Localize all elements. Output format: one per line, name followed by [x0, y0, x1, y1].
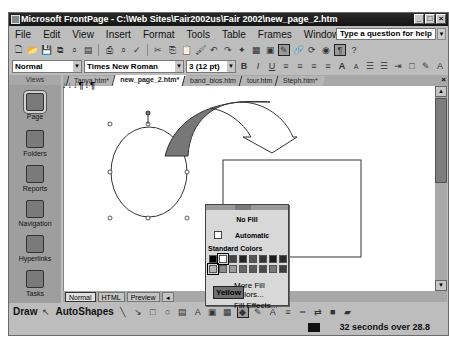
color-tooltip: Yellow — [213, 286, 244, 299]
color-swatch[interactable] — [259, 265, 267, 273]
fill-effects-option[interactable]: Fill Effects... — [206, 301, 288, 310]
color-swatch[interactable] — [249, 255, 257, 263]
automatic-label: Automatic — [235, 232, 269, 239]
color-swatch[interactable] — [239, 255, 247, 263]
automatic-option[interactable]: Automatic — [206, 231, 288, 239]
color-swatch[interactable] — [239, 265, 247, 273]
color-swatch[interactable] — [229, 265, 237, 273]
color-swatch[interactable] — [229, 255, 237, 263]
rotate-handle[interactable] — [146, 111, 150, 115]
color-palette — [206, 255, 288, 273]
color-swatch[interactable] — [279, 265, 287, 273]
color-swatch[interactable] — [269, 255, 277, 263]
color-swatch-yellow[interactable] — [209, 265, 217, 273]
curved-arrow-outline[interactable] — [210, 102, 297, 153]
color-swatch[interactable] — [219, 255, 227, 263]
color-swatch[interactable] — [269, 265, 277, 273]
color-swatch[interactable] — [219, 265, 227, 273]
color-swatch[interactable] — [279, 255, 287, 263]
automatic-swatch — [214, 231, 222, 239]
color-swatch[interactable] — [249, 265, 257, 273]
color-swatch[interactable] — [209, 255, 217, 263]
color-swatch[interactable] — [259, 255, 267, 263]
drag-handle[interactable] — [206, 205, 288, 210]
standard-colors-label: Standard Colors — [206, 245, 288, 252]
no-fill-option[interactable]: No Fill — [206, 216, 288, 223]
